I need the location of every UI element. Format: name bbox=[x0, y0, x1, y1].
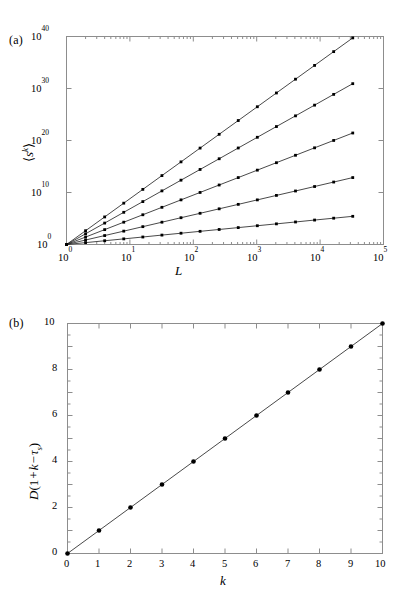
panel-b-marker bbox=[97, 528, 102, 533]
panel-a-marker bbox=[332, 217, 335, 220]
panel-a-marker bbox=[161, 206, 164, 209]
panel-a-marker bbox=[141, 213, 144, 216]
panel-b-marker bbox=[317, 367, 322, 372]
panel-a-marker bbox=[122, 230, 125, 233]
panel-a-marker bbox=[161, 234, 164, 237]
panel-a-marker bbox=[313, 104, 316, 107]
panel-a-marker bbox=[351, 82, 354, 85]
panel-a-marker bbox=[199, 147, 202, 150]
panel-b-marker bbox=[191, 459, 196, 464]
panel-a-marker bbox=[218, 133, 221, 136]
panel-a-marker bbox=[351, 176, 354, 179]
panel-a-marker bbox=[180, 160, 183, 163]
panel-a-marker bbox=[237, 176, 240, 179]
panel-a-marker bbox=[122, 211, 125, 214]
panel-a-marker bbox=[84, 232, 87, 235]
panel-a-marker bbox=[313, 185, 316, 188]
panel-a-marker bbox=[199, 212, 202, 215]
panel-a-marker bbox=[199, 230, 202, 233]
panel-b-marker bbox=[286, 390, 291, 395]
panel-a-marker bbox=[180, 198, 183, 201]
panel-a-marker bbox=[141, 225, 144, 228]
panel-b-marker bbox=[160, 482, 165, 487]
panel-a-marker bbox=[103, 228, 106, 231]
panel-a-marker bbox=[313, 64, 316, 67]
panel-a-marker bbox=[313, 146, 316, 149]
panel-b-marker bbox=[128, 505, 133, 510]
panel-a-marker bbox=[65, 243, 68, 246]
panel-a-marker bbox=[332, 50, 335, 53]
panel-a-ticks bbox=[67, 37, 384, 245]
panel-a-marker bbox=[275, 194, 278, 197]
figure-root: (a) 1040 1030 1020 1010 100 100 101 102 … bbox=[0, 0, 405, 595]
panel-a-marker bbox=[218, 157, 221, 160]
panel-a-marker bbox=[332, 93, 335, 96]
panel-b: (b) 10 8 6 4 2 0 0 1 2 3 4 5 6 7 8 9 10 … bbox=[0, 290, 405, 595]
panel-b-marker bbox=[65, 551, 70, 556]
panel-a-marker bbox=[256, 224, 259, 227]
panel-a-marker bbox=[218, 228, 221, 231]
panel-a-marker bbox=[141, 236, 144, 239]
panel-a-marker bbox=[294, 190, 297, 193]
panel-a-marker bbox=[313, 219, 316, 222]
panel-a-marker bbox=[84, 241, 87, 244]
panel-a-marker bbox=[218, 207, 221, 210]
panel-a-marker bbox=[256, 105, 259, 108]
panel-a-marker bbox=[103, 234, 106, 237]
panel-b-marker bbox=[223, 436, 228, 441]
panel-a-curves bbox=[65, 37, 354, 246]
panel-a-marker bbox=[180, 216, 183, 219]
panel-b-curves bbox=[65, 321, 385, 556]
panel-a-marker bbox=[122, 221, 125, 224]
panel-a-marker bbox=[332, 181, 335, 184]
panel-a-marker bbox=[294, 78, 297, 81]
panel-a-marker bbox=[294, 114, 297, 117]
panel-a-marker bbox=[237, 119, 240, 122]
panel-a-marker bbox=[351, 215, 354, 218]
panel-a-marker bbox=[199, 191, 202, 194]
panel-a-marker bbox=[161, 189, 164, 192]
panel-a-marker bbox=[180, 179, 183, 182]
panel-a-marker bbox=[256, 136, 259, 139]
panel-a-marker bbox=[275, 222, 278, 225]
panel-b-marker bbox=[380, 321, 385, 326]
panel-a-marker bbox=[84, 239, 87, 242]
panel-a-marker bbox=[141, 188, 144, 191]
panel-a-marker bbox=[237, 226, 240, 229]
panel-a-marker bbox=[256, 198, 259, 201]
panel-a-marker bbox=[332, 139, 335, 142]
panel-a-marker bbox=[275, 125, 278, 128]
panel-a-marker bbox=[237, 203, 240, 206]
panel-a-marker bbox=[122, 202, 125, 205]
panel-a-plot bbox=[0, 0, 405, 290]
panel-a-marker bbox=[122, 237, 125, 240]
panel-a-marker bbox=[84, 236, 87, 239]
panel-a-marker bbox=[103, 222, 106, 225]
panel-a-marker bbox=[351, 37, 354, 40]
panel-a-marker bbox=[275, 161, 278, 164]
panel-b-plot bbox=[0, 290, 405, 595]
panel-a-marker bbox=[161, 221, 164, 224]
panel-a-marker bbox=[103, 216, 106, 219]
panel-a-marker bbox=[294, 221, 297, 224]
panel-a: (a) 1040 1030 1020 1010 100 100 101 102 … bbox=[0, 0, 405, 290]
panel-a-marker bbox=[237, 147, 240, 150]
panel-a-marker bbox=[103, 239, 106, 242]
panel-a-marker bbox=[256, 169, 259, 172]
panel-a-marker bbox=[84, 229, 87, 232]
panel-a-curve-2 bbox=[67, 133, 353, 244]
panel-a-marker bbox=[199, 168, 202, 171]
panel-a-marker bbox=[141, 200, 144, 203]
panel-a-marker bbox=[275, 92, 278, 95]
panel-a-marker bbox=[180, 232, 183, 235]
panel-a-curve-3 bbox=[67, 178, 353, 245]
panel-a-frame bbox=[67, 37, 384, 245]
panel-a-marker bbox=[351, 132, 354, 135]
panel-a-curve-0 bbox=[67, 38, 353, 245]
panel-a-marker bbox=[161, 174, 164, 177]
panel-a-marker bbox=[218, 184, 221, 187]
panel-b-marker bbox=[349, 344, 354, 349]
panel-b-marker bbox=[254, 413, 259, 418]
panel-a-marker bbox=[294, 154, 297, 157]
